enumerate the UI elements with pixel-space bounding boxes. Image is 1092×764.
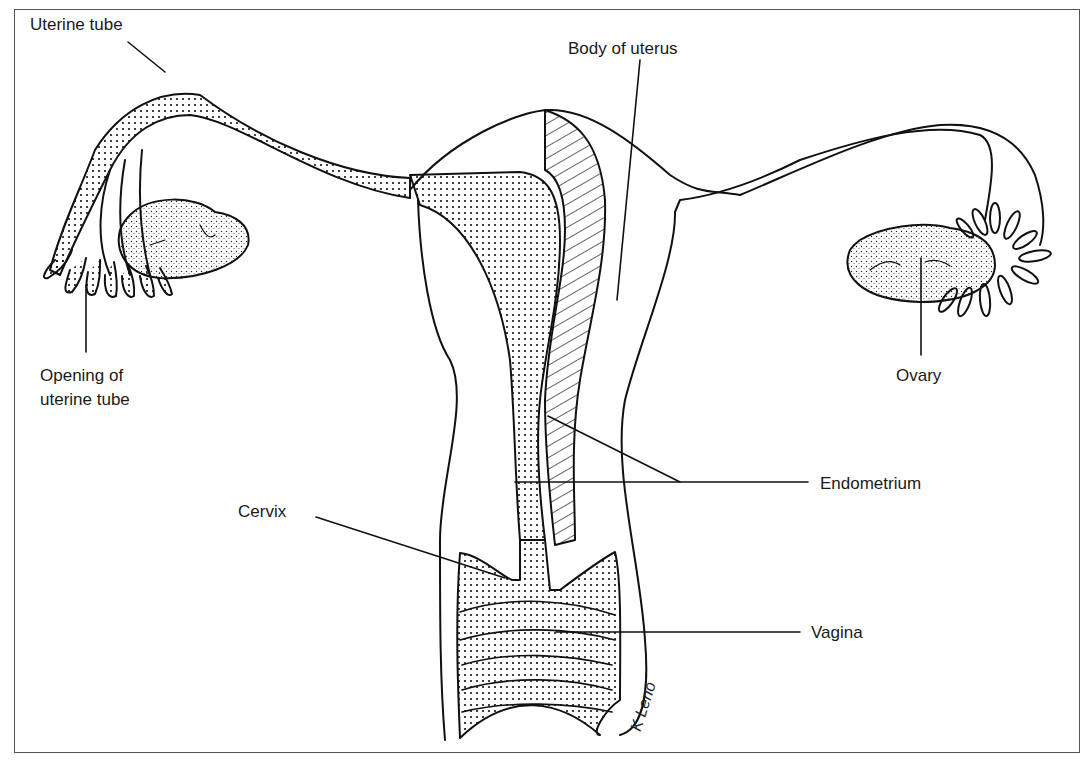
label-uterine-tube: Uterine tube (30, 14, 123, 35)
label-body-of-uterus: Body of uterus (568, 38, 678, 59)
label-endometrium: Endometrium (820, 473, 921, 494)
label-opening-line1: Opening of (40, 365, 123, 386)
right-uterine-tube (740, 125, 1043, 245)
left-uterine-tube (44, 94, 410, 297)
label-vagina: Vagina (811, 622, 863, 643)
left-ovary (119, 200, 249, 279)
label-cervix: Cervix (238, 501, 286, 522)
leader-lines (86, 42, 921, 632)
uterine-cavity (410, 110, 605, 545)
label-ovary: Ovary (896, 365, 941, 386)
label-opening-line2: uterine tube (40, 389, 130, 410)
